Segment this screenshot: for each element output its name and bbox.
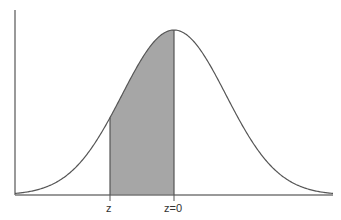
- z-label: z: [106, 203, 112, 214]
- z-zero-label: z=0: [164, 203, 182, 214]
- normal-curve-diagram: [0, 0, 341, 220]
- shaded-area: [110, 30, 174, 195]
